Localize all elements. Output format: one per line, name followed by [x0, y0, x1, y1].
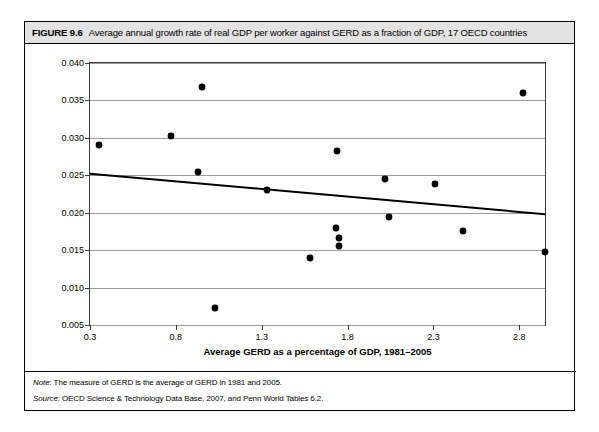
- data-point: [264, 187, 270, 193]
- note-text: : The measure of GERD is the average of …: [50, 378, 282, 387]
- note-label: Note: [33, 378, 50, 387]
- y-tick-label: 0.040: [61, 58, 84, 68]
- figure-number: FIGURE 9.6: [32, 27, 83, 38]
- data-point: [542, 249, 548, 255]
- data-point: [334, 148, 340, 154]
- data-point: [168, 133, 174, 139]
- figure-title: Average annual growth rate of real GDP p…: [89, 27, 527, 38]
- plot-area: Average annual growth rate of GDP per wo…: [25, 44, 576, 371]
- y-tick-label: 0.010: [61, 283, 84, 293]
- source-row: Source: OECD Science & Technology Data B…: [33, 394, 568, 403]
- data-point: [96, 142, 102, 148]
- x-tick-mark: [262, 325, 263, 330]
- x-tick-label: 1.3: [255, 332, 268, 342]
- x-tick-label: 1.8: [341, 332, 354, 342]
- x-tick-label: 0.3: [84, 332, 97, 342]
- y-tick-label: 0.020: [61, 208, 84, 218]
- source-label: Source: [33, 394, 58, 403]
- y-tick-label: 0.030: [61, 133, 84, 143]
- figure-notes: Note: The measure of GERD is the average…: [25, 371, 576, 410]
- figure-header: FIGURE 9.6 Average annual growth rate of…: [25, 22, 574, 44]
- data-point: [386, 214, 392, 220]
- data-point: [212, 305, 218, 311]
- data-point: [382, 176, 388, 182]
- note-row: Note: The measure of GERD is the average…: [33, 378, 568, 387]
- data-point: [460, 228, 466, 234]
- data-point: [520, 90, 526, 96]
- scatter-series: [90, 63, 545, 325]
- data-point: [336, 235, 342, 241]
- axes-frame: 0.0050.0100.0150.0200.0250.0300.0350.040…: [89, 62, 546, 326]
- x-tick-label: 2.3: [427, 332, 440, 342]
- data-point: [195, 169, 201, 175]
- x-tick-mark: [519, 325, 520, 330]
- x-tick-label: 2.8: [513, 332, 526, 342]
- gridline: [90, 325, 545, 326]
- figure-container: FIGURE 9.6 Average annual growth rate of…: [24, 21, 575, 411]
- y-tick-label: 0.035: [61, 95, 84, 105]
- source-text: : OECD Science & Technology Data Base, 2…: [58, 394, 324, 403]
- x-tick-mark: [348, 325, 349, 330]
- data-point: [336, 243, 342, 249]
- x-tick-mark: [176, 325, 177, 330]
- data-point: [432, 181, 438, 187]
- x-tick-label: 0.8: [170, 332, 183, 342]
- data-point: [199, 84, 205, 90]
- x-axis-title: Average GERD as a percentage of GDP, 198…: [89, 346, 546, 357]
- y-tick-label: 0.015: [61, 245, 84, 255]
- data-point: [333, 225, 339, 231]
- data-point: [307, 255, 313, 261]
- x-tick-mark: [90, 325, 91, 330]
- y-tick-label: 0.025: [61, 170, 84, 180]
- y-tick-label: 0.005: [61, 320, 84, 330]
- x-tick-mark: [433, 325, 434, 330]
